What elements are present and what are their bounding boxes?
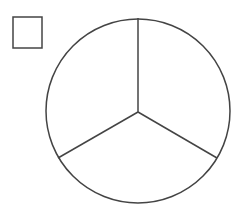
diagram-canvas	[0, 0, 236, 206]
spoke-lower-right	[138, 112, 217, 158]
small-square	[13, 17, 42, 48]
diagram-svg	[0, 0, 236, 206]
spoke-lower-left	[58, 112, 138, 158]
